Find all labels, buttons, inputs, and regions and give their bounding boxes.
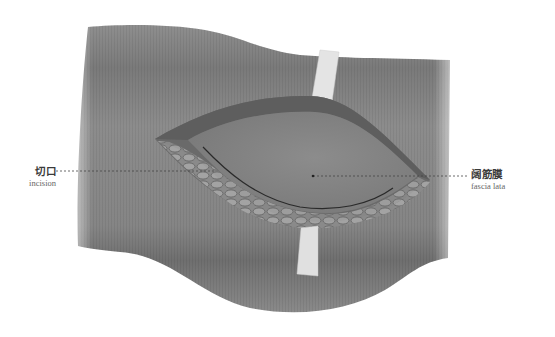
label-fascia-lata: 阔筋膜 fascia lata (471, 169, 531, 190)
label-incision-en: incision (8, 179, 56, 188)
leader-dot-fascia (312, 175, 315, 178)
label-incision-zh: 切口 (8, 166, 56, 177)
label-incision: 切口 incision (8, 166, 56, 187)
label-fascia-lata-en: fascia lata (471, 182, 531, 191)
label-fascia-lata-zh: 阔筋膜 (471, 169, 531, 180)
